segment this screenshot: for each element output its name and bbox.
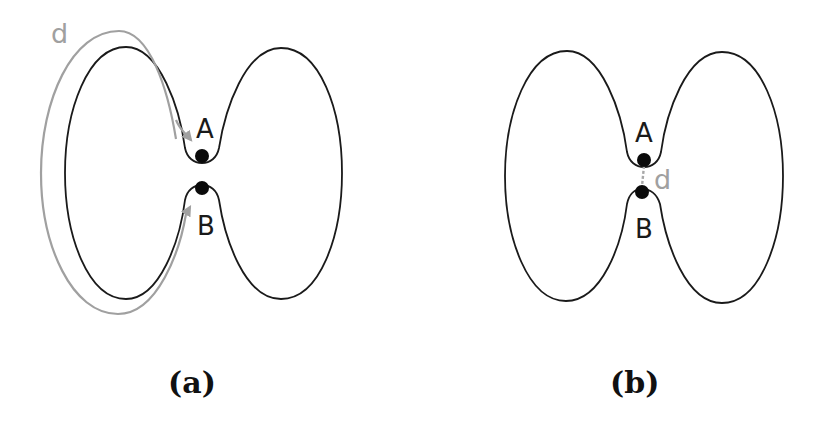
geodesic-distance-arc xyxy=(41,31,190,314)
point-b-dot xyxy=(635,185,649,199)
distance-label-a: d xyxy=(51,18,68,49)
point-b-dot xyxy=(195,181,209,195)
point-b-label: B xyxy=(635,214,653,244)
panel-a: A B d (a) xyxy=(41,18,342,400)
point-a-label: A xyxy=(196,114,214,144)
shape-outline-a xyxy=(65,47,342,299)
point-a-dot xyxy=(195,149,209,163)
caption-a: (a) xyxy=(168,365,216,400)
distance-label-b: d xyxy=(654,164,671,195)
caption-b: (b) xyxy=(610,365,659,400)
point-a-label: A xyxy=(635,118,653,148)
point-b-label: B xyxy=(197,211,215,241)
panel-b: A B d (b) xyxy=(505,51,783,400)
euclidean-distance-segment xyxy=(642,166,644,186)
figure-canvas: A B d (a) A B d (b) xyxy=(0,0,813,430)
point-a-dot xyxy=(637,153,651,167)
